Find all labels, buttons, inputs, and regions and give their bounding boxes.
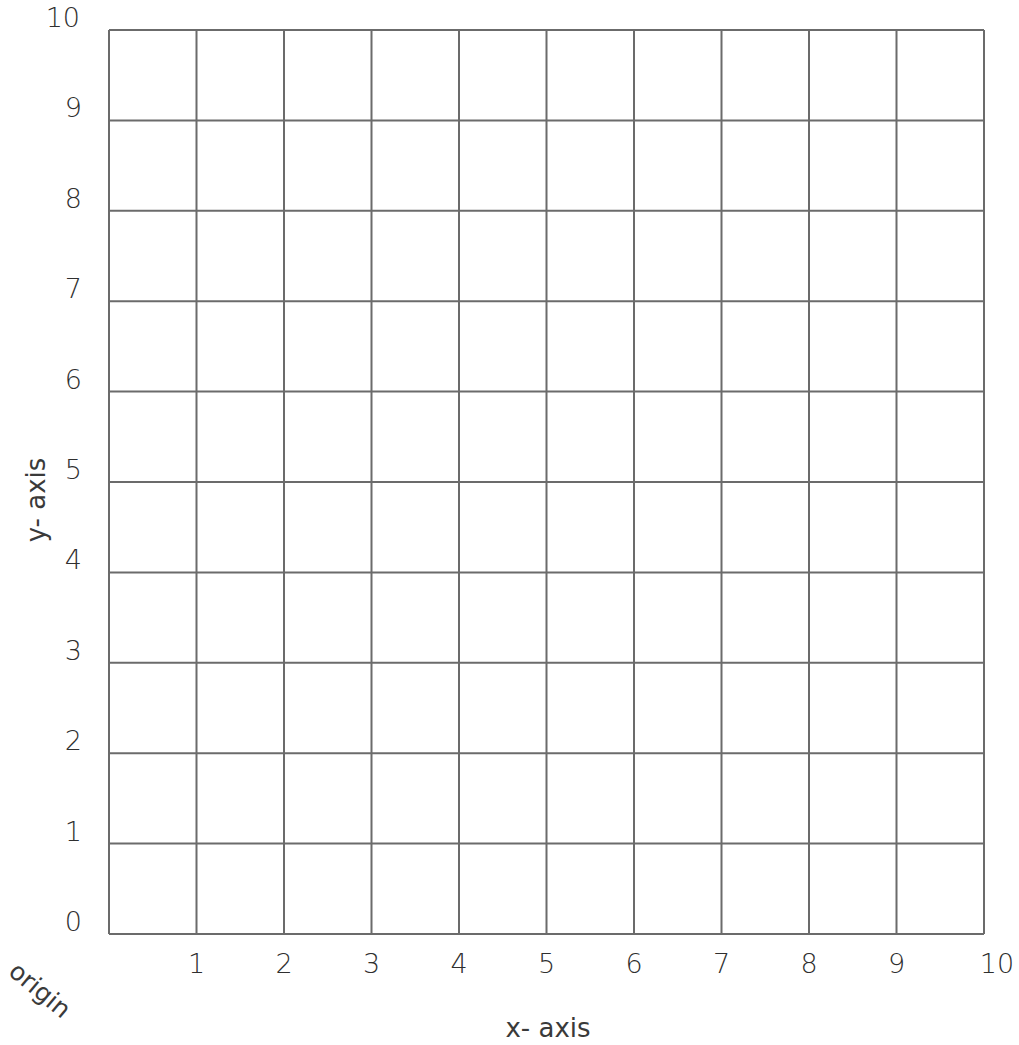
y-tick-label: 3 <box>42 637 82 664</box>
x-tick-label: 1 <box>172 950 222 977</box>
x-tick-label: 8 <box>784 950 834 977</box>
y-tick-label: 1 <box>42 818 82 845</box>
y-tick-label: 9 <box>42 94 82 121</box>
y-tick-label: 2 <box>42 727 82 754</box>
x-tick-label: 6 <box>609 950 659 977</box>
y-tick-label: 8 <box>42 185 82 212</box>
y-tick-label: 4 <box>42 546 82 573</box>
x-tick-label: 4 <box>434 950 484 977</box>
y-axis-title: y- axis <box>23 458 49 543</box>
x-tick-label: 3 <box>347 950 397 977</box>
x-tick-label: 7 <box>697 950 747 977</box>
y-tick-label: 6 <box>42 366 82 393</box>
x-tick-label: 5 <box>522 950 572 977</box>
x-axis-title: x- axis <box>505 1015 590 1041</box>
x-tick-label: 10 <box>972 950 1019 977</box>
y-tick-label: 7 <box>42 275 82 302</box>
x-tick-label: 9 <box>872 950 922 977</box>
coordinate-grid <box>0 0 1019 1045</box>
x-tick-label: 2 <box>259 950 309 977</box>
y-tick-label: 10 <box>40 4 80 31</box>
y-tick-label: 0 <box>42 908 82 935</box>
